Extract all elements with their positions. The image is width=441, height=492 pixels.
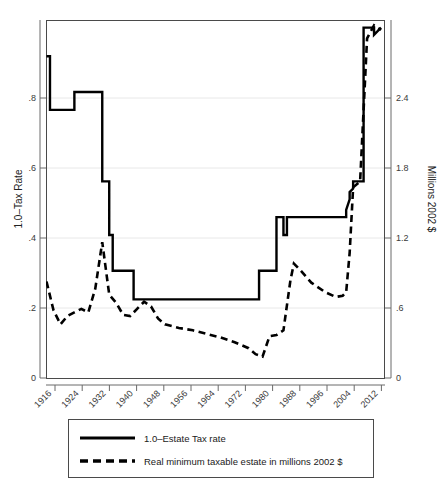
legend: 1.0–Estate Tax rate Real minimum taxable… [69, 420, 374, 478]
chart-background [0, 0, 441, 492]
y2-tick-label-0.6: .6 [396, 303, 404, 313]
legend-box [69, 420, 374, 478]
legend-label-real-minimum-taxable-estate: Real minimum taxable estate in millions … [144, 456, 343, 467]
y-tick-label-0: 0 [31, 373, 36, 383]
estate-tax-chart-figure: .8 .6 .4 .2 0 1.0–Tax Rate 2.4 1.8 1.2 .… [0, 0, 441, 492]
y2-tick-label-2.4: 2.4 [396, 93, 409, 103]
y2-tick-label-1.2: 1.2 [396, 233, 409, 243]
y2-axis-title: Millions 2002 $ [426, 166, 437, 233]
y-tick-label-0.8: .8 [28, 93, 36, 103]
legend-label-estate-tax-rate: 1.0–Estate Tax rate [144, 433, 226, 444]
y-tick-label-0.2: .2 [28, 303, 36, 313]
chart-canvas: .8 .6 .4 .2 0 1.0–Tax Rate 2.4 1.8 1.2 .… [0, 0, 441, 492]
y2-tick-label-1.8: 1.8 [396, 163, 409, 173]
y2-tick-label-0: 0 [396, 373, 401, 383]
y-axis-title: 1.0–Tax Rate [13, 169, 24, 228]
y-tick-label-0.6: .6 [28, 163, 36, 173]
y-tick-label-0.4: .4 [28, 233, 36, 243]
